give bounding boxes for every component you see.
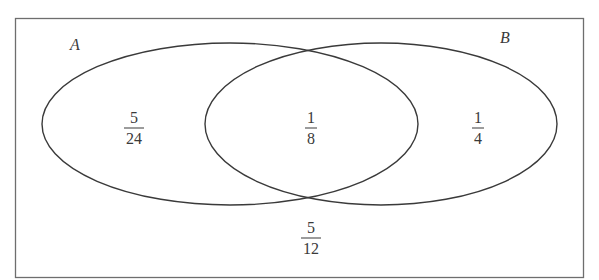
set-b-ellipse — [205, 43, 557, 205]
region-b-only-value: 1 4 — [472, 110, 484, 147]
set-a-label: A — [70, 36, 80, 54]
region-outside-denominator: 12 — [301, 241, 321, 257]
fraction-bar — [305, 128, 317, 129]
region-intersection-numerator: 1 — [305, 110, 317, 127]
region-outside-value: 5 12 — [301, 220, 321, 257]
region-outside-numerator: 5 — [301, 220, 321, 237]
set-b-label: B — [500, 29, 510, 47]
fraction-bar — [472, 128, 484, 129]
universal-set-rectangle — [16, 19, 584, 278]
region-a-only-value: 5 24 — [124, 110, 144, 147]
fraction-bar — [301, 238, 321, 239]
region-b-only-numerator: 1 — [472, 110, 484, 127]
region-a-only-denominator: 24 — [124, 131, 144, 147]
set-a-ellipse — [42, 43, 418, 205]
region-intersection-denominator: 8 — [305, 131, 317, 147]
region-a-only-numerator: 5 — [124, 110, 144, 127]
region-b-only-denominator: 4 — [472, 131, 484, 147]
fraction-bar — [124, 128, 144, 129]
region-intersection-value: 1 8 — [305, 110, 317, 147]
